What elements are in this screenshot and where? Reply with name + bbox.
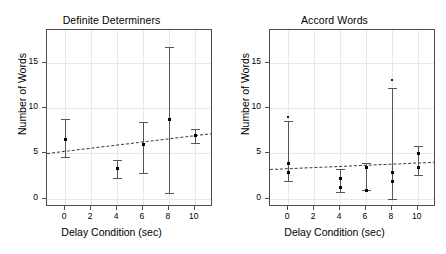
x-axis-tick-mark [417,206,418,210]
error-bar-cap-upper [139,122,148,123]
data-point [365,166,368,169]
x-axis-label: Delay Condition (sec) [223,226,446,238]
y-axis-tick-mark [265,107,269,108]
x-axis-tick-label: 2 [303,211,323,221]
y-axis-tick-label: 15 [237,56,261,66]
error-bar-cap-lower [284,181,293,182]
y-axis-tick-label: 5 [14,146,38,156]
outlier-point [391,79,393,81]
gridline-horizontal [270,153,434,154]
y-axis-tick-mark [42,152,46,153]
x-axis-tick-mark [168,206,169,210]
x-axis-tick-mark [142,206,143,210]
data-point-secondary [391,180,394,183]
y-axis-tick-label: 10 [237,101,261,111]
data-point [168,118,171,121]
panel-title: Definite Determiners [0,14,223,26]
figure-canvas: Definite Determiners Number of Words Del… [0,0,446,254]
gridline-horizontal [270,63,434,64]
gridline-vertical [143,30,144,205]
x-axis-tick-mark [339,206,340,210]
x-axis-tick-label: 4 [329,211,349,221]
data-point [339,177,342,180]
y-axis-tick-label: 5 [237,146,261,156]
error-bar-cap-lower [61,157,70,158]
data-point [194,134,197,137]
data-point [64,138,67,141]
error-bar [143,122,144,174]
error-bar-cap-upper [191,129,200,130]
data-point-secondary [339,186,342,189]
x-axis-tick-mark [64,206,65,210]
gridline-vertical [65,30,66,205]
chart-panel-accord-words: Accord Words Number of Words Delay Condi… [223,0,446,254]
gridline-vertical [91,30,92,205]
x-axis-tick-mark [365,206,366,210]
x-axis-tick-label: 0 [277,211,297,221]
x-axis-tick-label: 10 [184,211,204,221]
error-bar-cap-upper [336,169,345,170]
y-axis-tick-mark [265,152,269,153]
error-bar [418,146,419,175]
x-axis-tick-label: 10 [407,211,427,221]
error-bar-cap-upper [414,146,423,147]
gridline-horizontal [47,199,211,200]
x-axis-tick-label: 0 [54,211,74,221]
y-axis-tick-mark [42,107,46,108]
gridline-vertical [195,30,196,205]
y-axis-tick-label: 15 [14,56,38,66]
x-axis-label: Delay Condition (sec) [0,226,223,238]
error-bar-cap-lower [139,173,148,174]
trend-line [270,162,435,170]
data-point-secondary [365,189,368,192]
outlier-point [287,116,289,118]
error-bar-cap-upper [61,119,70,120]
y-axis-tick-mark [265,62,269,63]
x-axis-tick-mark [287,206,288,210]
x-axis-tick-mark [90,206,91,210]
y-axis-tick-label: 0 [237,192,261,202]
error-bar-cap-upper [284,121,293,122]
gridline-horizontal [47,63,211,64]
gridline-horizontal [270,108,434,109]
trend-line [47,133,212,154]
x-axis-tick-label: 8 [381,211,401,221]
x-axis-tick-mark [313,206,314,210]
error-bar-cap-lower [388,199,397,200]
gridline-vertical [314,30,315,205]
plot-area [46,29,212,206]
error-bar-cap-upper [388,88,397,89]
gridline-horizontal [270,199,434,200]
y-axis-tick-label: 10 [14,101,38,111]
gridline-vertical [418,30,419,205]
data-point-secondary [417,166,420,169]
x-axis-tick-label: 6 [355,211,375,221]
error-bar-cap-upper [113,160,122,161]
y-axis-tick-label: 0 [14,192,38,202]
data-point [287,162,290,165]
data-point [391,171,394,174]
x-axis-tick-mark [194,206,195,210]
y-axis-tick-mark [265,198,269,199]
chart-panel-definite-determiners: Definite Determiners Number of Words Del… [0,0,223,254]
x-axis-tick-mark [391,206,392,210]
x-axis-tick-label: 8 [158,211,178,221]
x-axis-tick-mark [116,206,117,210]
y-axis-tick-mark [42,198,46,199]
x-axis-tick-label: 4 [106,211,126,221]
error-bar-cap-lower [165,193,174,194]
y-axis-label: Number of Words [16,24,28,164]
x-axis-tick-label: 2 [80,211,100,221]
x-axis-tick-label: 6 [132,211,152,221]
data-point [116,167,119,170]
gridline-horizontal [47,153,211,154]
data-point-secondary [287,171,290,174]
error-bar-cap-lower [414,175,423,176]
panel-title: Accord Words [223,14,446,26]
data-point [142,143,145,146]
error-bar-cap-upper [362,163,371,164]
error-bar-cap-upper [165,47,174,48]
error-bar-cap-lower [191,143,200,144]
plot-area [269,29,435,206]
y-axis-tick-mark [42,62,46,63]
